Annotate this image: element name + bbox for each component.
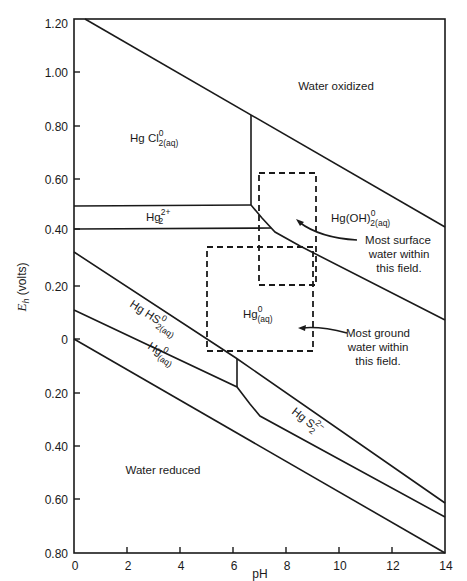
x-tick-label: 14: [439, 559, 453, 573]
x-tick-label: 0: [72, 559, 79, 573]
y-tick-label: 0.60: [45, 493, 69, 507]
svg-text:Eh (volts): Eh (volts): [14, 263, 31, 313]
hgoh2-label: Hg(OH)02(aq): [331, 208, 390, 228]
hg22-label: Hg2+2: [146, 207, 170, 226]
hg22-hgaq-boundary: [74, 228, 271, 229]
svg-text:Most surface: Most surface: [365, 234, 431, 246]
water-reduced-label: Water reduced: [126, 464, 201, 476]
svg-text:water within: water within: [347, 341, 409, 353]
y-axis-title: Eh (volts): [14, 263, 31, 313]
x-tick-label: 6: [231, 559, 238, 573]
y-tick-label: 0.40: [45, 223, 69, 237]
svg-text:Hg0(aq): Hg0(aq): [144, 336, 180, 369]
hgaq-lower-label: Hg0(aq): [144, 336, 180, 369]
x-axis-title: pH: [252, 567, 267, 581]
svg-text:this field.: this field.: [355, 355, 400, 367]
surface-water-box: [259, 173, 316, 285]
eh-ph-diagram: 1.20 1.00 0.80 0.60 0.40 0.20 0 0.20 0.4…: [0, 0, 467, 581]
x-tick-label: 12: [386, 559, 400, 573]
water-oxidized-label: Water oxidized: [298, 80, 374, 92]
x-tick-label: 10: [333, 559, 347, 573]
x-tick-label: 8: [284, 559, 291, 573]
y-tick-label: 1.20: [45, 17, 69, 31]
y-tick-label: 0.60: [45, 173, 69, 187]
water-reduction-line: [74, 339, 445, 553]
svg-text:water within: water within: [368, 248, 430, 260]
hgcl2-label: Hg Cl02(aq): [130, 128, 179, 148]
surface-water-arrow: [299, 222, 357, 240]
y-tick-label: 0.40: [45, 440, 69, 454]
ground-water-note: Most ground water within this field.: [346, 327, 410, 367]
y-tick-label: 0.20: [45, 280, 69, 294]
svg-text:Most ground: Most ground: [346, 327, 410, 339]
ground-arrowhead-icon: [298, 325, 306, 331]
y-tick-label: 1.00: [45, 66, 69, 80]
hgaq-center-label: Hg0(aq): [243, 304, 273, 324]
ground-water-arrow: [302, 328, 347, 333]
y-axis-title-rest: (volts): [15, 263, 29, 299]
water-oxidation-line: [85, 19, 445, 227]
x-tick-label: 2: [125, 559, 132, 573]
ground-water-box: [207, 247, 313, 351]
x-tick-label: 4: [178, 559, 185, 573]
hgcl2-hg22-boundary: [74, 205, 251, 206]
y-axis-labels: 1.20 1.00 0.80 0.60 0.40 0.20 0 0.20 0.4…: [45, 17, 69, 561]
svg-text:this field.: this field.: [376, 262, 421, 274]
y-tick-label: 0: [61, 333, 68, 347]
y-axis-title-e: E: [14, 303, 29, 312]
x-axis-ticks: [127, 547, 392, 553]
y-tick-label: 0.80: [45, 547, 69, 561]
y-tick-label: 0.80: [45, 120, 69, 134]
y-axis-ticks: [74, 72, 80, 499]
y-tick-label: 0.20: [45, 387, 69, 401]
surface-water-note: Most surface water within this field.: [365, 234, 431, 274]
